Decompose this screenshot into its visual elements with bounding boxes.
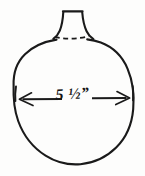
dimension-tick-left [15, 87, 16, 102]
vessel-body-outline [14, 39, 134, 164]
neck-left-wall [53, 12, 63, 39]
sketch-canvas: 5 ½” [0, 0, 145, 176]
sketch-illustration [0, 0, 145, 176]
neck-base-hidden-edge [55, 36, 89, 38]
dimension-tick-right [133, 86, 134, 100]
neck-right-wall [82, 12, 93, 39]
